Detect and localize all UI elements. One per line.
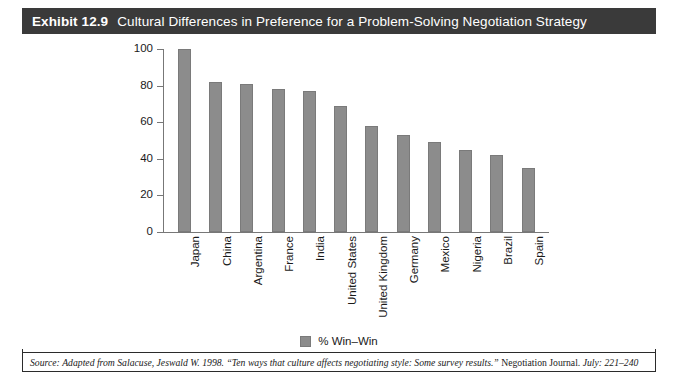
x-axis-tick-label: Mexico bbox=[439, 236, 451, 272]
bar bbox=[490, 155, 503, 232]
bar bbox=[209, 82, 222, 232]
y-axis-tick-label: 60 bbox=[109, 115, 153, 127]
x-axis-tick-label: Germany bbox=[408, 236, 420, 283]
y-axis-tick-label: 100 bbox=[109, 42, 153, 54]
x-axis-tick-label: United Kingdom bbox=[377, 236, 389, 318]
chart-legend: % Win–Win bbox=[22, 332, 656, 350]
bar-series bbox=[163, 49, 549, 232]
bar bbox=[459, 150, 472, 232]
x-axis-tick-labels: JapanChinaArgentinaFranceIndiaUnited Sta… bbox=[163, 236, 549, 336]
bar bbox=[178, 49, 191, 232]
y-axis-tick bbox=[157, 232, 163, 233]
bar bbox=[522, 168, 535, 232]
source-note: Source: Adapted from Salacuse, Jeswald W… bbox=[30, 357, 656, 370]
x-axis-tick-label: India bbox=[314, 236, 326, 261]
source-divider bbox=[22, 352, 656, 353]
y-axis-tick-label: 0 bbox=[109, 225, 153, 237]
x-axis-tick-label: France bbox=[283, 236, 295, 272]
y-axis-tick-labels: 020406080100 bbox=[107, 34, 153, 349]
x-axis-line bbox=[163, 232, 549, 233]
bar bbox=[397, 135, 410, 232]
x-axis-tick-label: Spain bbox=[533, 236, 545, 265]
x-axis-tick-label: Brazil bbox=[502, 236, 514, 265]
legend-label-win-win: % Win–Win bbox=[318, 335, 377, 347]
x-axis-tick-label: Japan bbox=[189, 236, 201, 267]
y-axis-tick-label: 40 bbox=[109, 152, 153, 164]
exhibit-figure: Exhibit 12.9 Cultural Differences in Pre… bbox=[0, 0, 681, 382]
bar bbox=[272, 89, 285, 232]
chart-panel: 020406080100 JapanChinaArgentinaFranceIn… bbox=[22, 34, 656, 349]
exhibit-number: Exhibit 12.9 bbox=[32, 14, 108, 29]
source-journal: Negotiation Journal. bbox=[501, 357, 580, 368]
legend-swatch-win-win bbox=[300, 336, 311, 347]
x-axis-tick-label: United States bbox=[346, 236, 358, 305]
source-citation-part2: July: 221–240 bbox=[583, 357, 639, 368]
bar bbox=[240, 84, 253, 232]
bar bbox=[428, 142, 441, 232]
y-axis-tick-label: 20 bbox=[109, 188, 153, 200]
x-axis-tick-label: China bbox=[221, 236, 233, 266]
y-axis-tick-label: 80 bbox=[109, 79, 153, 91]
x-axis-tick-label: Nigeria bbox=[471, 236, 483, 272]
x-axis-tick-label: Argentina bbox=[252, 236, 264, 285]
bar bbox=[334, 106, 347, 232]
bar bbox=[303, 91, 316, 232]
exhibit-title-bar: Exhibit 12.9 Cultural Differences in Pre… bbox=[22, 8, 656, 34]
source-prefix: Source: bbox=[30, 357, 60, 368]
source-citation-part1: Adapted from Salacuse, Jeswald W. 1998. … bbox=[62, 357, 499, 368]
exhibit-title: Cultural Differences in Preference for a… bbox=[117, 14, 587, 29]
bar bbox=[365, 126, 378, 232]
